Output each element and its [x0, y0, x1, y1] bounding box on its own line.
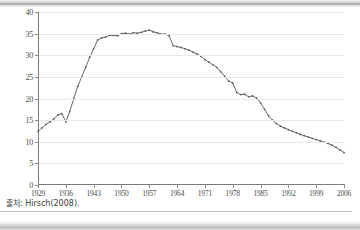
x-axis-tick — [177, 184, 178, 188]
series-point — [291, 131, 293, 133]
gridline-y — [38, 12, 344, 13]
y-axis-label: 35 — [25, 29, 33, 38]
gridline-y — [38, 99, 344, 100]
y-axis-tick — [35, 55, 39, 56]
series-point — [49, 121, 51, 123]
x-axis-label: 1992 — [281, 189, 295, 198]
series-point — [232, 82, 234, 84]
series-point — [152, 31, 154, 33]
series-point — [168, 35, 170, 37]
series-point — [144, 30, 146, 32]
series-point — [77, 86, 79, 88]
series-point — [208, 61, 210, 63]
x-axis-tick — [121, 184, 122, 188]
series-point — [93, 48, 95, 50]
series-point — [327, 143, 329, 145]
series-point — [299, 134, 301, 136]
series-point — [339, 149, 341, 151]
series-point — [307, 136, 309, 138]
y-axis-label: 25 — [25, 72, 33, 81]
y-axis-tick — [35, 12, 39, 13]
x-axis-label: 1971 — [198, 189, 212, 198]
series-point — [117, 35, 119, 37]
series-point — [148, 29, 150, 31]
x-axis-label: 1999 — [309, 189, 323, 198]
series-point — [180, 47, 182, 49]
gridline-y — [38, 142, 344, 143]
series-point — [184, 48, 186, 50]
series-point — [105, 36, 107, 38]
series-point — [260, 102, 262, 104]
x-axis-label: 1957 — [142, 189, 156, 198]
series-point — [244, 93, 246, 95]
x-axis-label: 1943 — [87, 189, 101, 198]
series-point — [303, 135, 305, 137]
y-axis-tick — [35, 34, 39, 35]
x-axis-label: 2006 — [337, 189, 351, 198]
figure-divider — [0, 211, 352, 212]
series-point — [176, 46, 178, 48]
chart-area: 0510152025303540192919361943195019571964… — [0, 7, 360, 197]
y-axis-tick — [35, 77, 39, 78]
y-axis-label: 5 — [29, 159, 33, 168]
series-point — [343, 152, 345, 154]
x-axis-tick — [149, 184, 150, 188]
y-axis-label: 40 — [25, 8, 33, 17]
y-axis-tick — [35, 99, 39, 100]
y-axis-tick — [35, 120, 39, 121]
series-point — [97, 39, 99, 41]
series-point — [216, 67, 218, 69]
series-point — [65, 121, 67, 123]
series-point — [204, 59, 206, 61]
x-axis-label: 1978 — [226, 189, 240, 198]
figure-container: 0510152025303540192919361943195019571964… — [0, 0, 360, 230]
series-point — [89, 57, 91, 59]
x-axis-label: 1950 — [114, 189, 128, 198]
series-point — [85, 67, 87, 69]
series-point — [280, 125, 282, 127]
y-axis-tick — [35, 163, 39, 164]
series-point — [252, 95, 254, 97]
series-point — [311, 137, 313, 139]
series-point — [248, 96, 250, 98]
series-line — [38, 30, 344, 152]
series-point — [212, 64, 214, 66]
x-axis-tick — [94, 184, 95, 188]
series-point — [276, 123, 278, 125]
series-point — [61, 113, 63, 115]
y-axis-label: 30 — [25, 51, 33, 60]
y-axis-label: 15 — [25, 116, 33, 125]
x-axis-label: 1985 — [253, 189, 267, 198]
series-point — [192, 51, 194, 53]
series-point — [331, 144, 333, 146]
gridline-y — [38, 163, 344, 164]
series-point — [113, 35, 115, 37]
series-point — [109, 35, 111, 37]
series-point — [220, 71, 222, 73]
x-axis-tick — [66, 184, 67, 188]
series-point — [41, 127, 43, 129]
gridline-y — [38, 34, 344, 35]
scan-band-top-line — [0, 3, 360, 5]
series-point — [57, 114, 59, 116]
gridline-y — [38, 120, 344, 121]
series-point — [264, 108, 266, 110]
x-axis-tick — [38, 184, 39, 188]
x-axis-tick — [316, 184, 317, 188]
x-axis-tick — [261, 184, 262, 188]
series-point — [288, 129, 290, 131]
series-point — [268, 115, 270, 117]
series-point — [295, 132, 297, 134]
series-point — [69, 111, 71, 113]
y-axis-tick — [35, 142, 39, 143]
y-axis-label: 10 — [25, 137, 33, 146]
series-point — [284, 127, 286, 129]
x-axis-tick — [344, 184, 345, 188]
series-point — [335, 147, 337, 149]
series-point — [240, 94, 242, 96]
series-point — [188, 49, 190, 51]
scan-band-bottom — [0, 222, 360, 230]
x-axis-tick — [288, 184, 289, 188]
x-axis-tick — [205, 184, 206, 188]
series-point — [45, 124, 47, 126]
